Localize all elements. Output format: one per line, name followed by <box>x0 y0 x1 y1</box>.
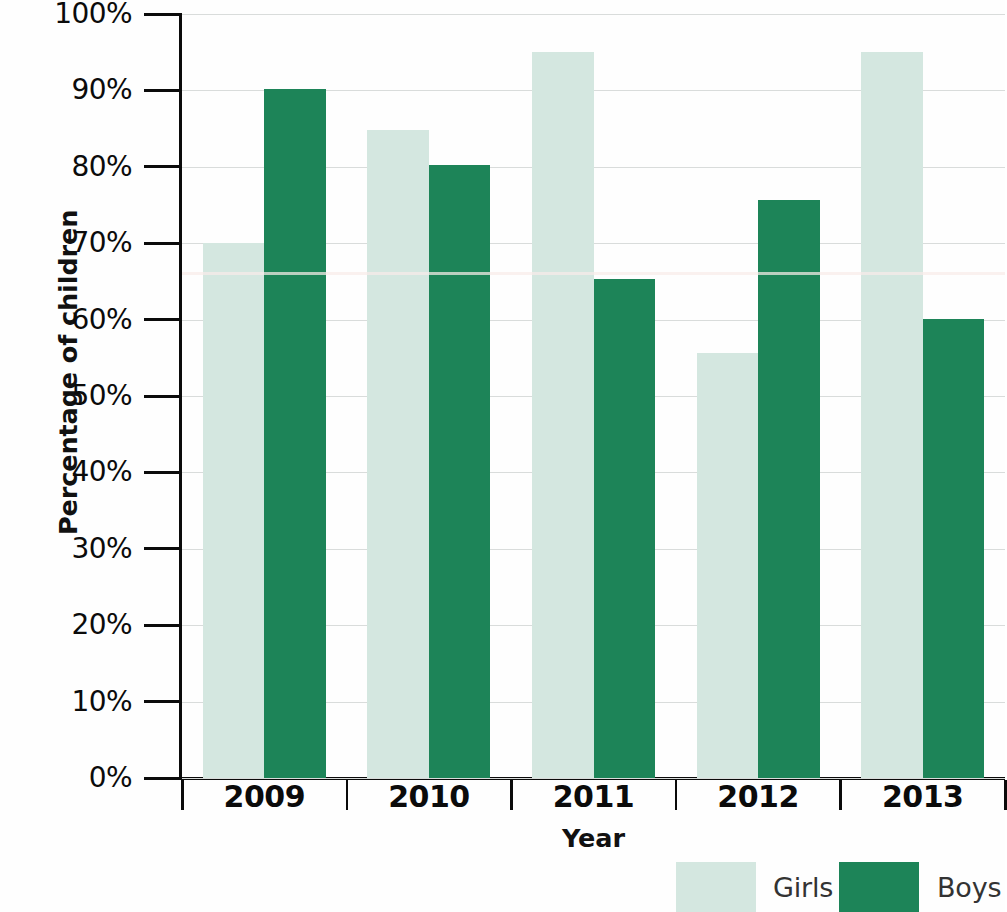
y-tick-label: 10% <box>4 688 132 716</box>
legend-swatch-girls <box>676 862 756 912</box>
y-tick-label: 0% <box>4 764 132 792</box>
x-tick-label-2012: 2012 <box>676 779 840 814</box>
y-tick-mark <box>144 13 181 16</box>
y-tick-label: 50% <box>4 382 132 410</box>
y-tick-label: 20% <box>4 611 132 639</box>
bar-girls-2013 <box>861 52 923 778</box>
y-tick-mark <box>144 700 181 703</box>
legend-label-girls: Girls <box>773 872 833 903</box>
y-tick-mark <box>144 242 181 245</box>
y-axis-tick-labels: 0%10%20%30%40%50%60%70%80%90%100% <box>0 0 132 912</box>
y-tick-label: 40% <box>4 458 132 486</box>
chart-legend: Girls Boys <box>676 862 1005 912</box>
y-tick-mark <box>144 777 181 780</box>
legend-swatch-boys <box>839 862 919 912</box>
y-tick-mark <box>144 318 181 321</box>
y-tick-mark <box>144 624 181 627</box>
bar-girls-2011 <box>532 52 594 778</box>
y-tick-mark <box>144 395 181 398</box>
y-tick-label: 60% <box>4 306 132 334</box>
x-axis-title: Year <box>182 823 1005 853</box>
y-tick-label: 70% <box>4 229 132 257</box>
x-tick-label-2009: 2009 <box>182 779 346 814</box>
bar-girls-2009 <box>203 243 265 778</box>
y-tick-label: 30% <box>4 535 132 563</box>
bar-girls-2010 <box>367 130 429 778</box>
bar-girls-2012 <box>697 353 759 778</box>
bar-boys-2009 <box>264 89 326 778</box>
x-tick-label-2010: 2010 <box>347 779 511 814</box>
y-tick-mark <box>144 547 181 550</box>
y-tick-label: 80% <box>4 153 132 181</box>
y-tick-mark <box>144 89 181 92</box>
x-tick-label-2013: 2013 <box>841 779 1005 814</box>
y-tick-label: 100% <box>4 0 132 28</box>
x-tick-label-2011: 2011 <box>512 779 676 814</box>
y-tick-mark <box>144 471 181 474</box>
legend-label-boys: Boys <box>937 872 1001 903</box>
bar-boys-2013 <box>923 319 985 778</box>
y-tick-mark <box>144 165 181 168</box>
plot-area <box>182 14 1005 778</box>
bar-boys-2012 <box>758 200 820 778</box>
bar-boys-2010 <box>429 165 491 779</box>
y-tick-label: 90% <box>4 76 132 104</box>
gridline <box>182 14 1005 15</box>
bar-boys-2011 <box>594 279 656 778</box>
